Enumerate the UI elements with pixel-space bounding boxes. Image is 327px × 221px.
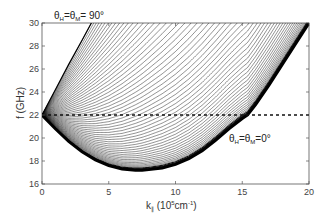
annotation-theta-90: θH=θM= 90° [54,10,104,22]
y-tick-label: 24 [29,87,39,97]
y-tick-label: 28 [29,41,39,51]
x-tick-label: 20 [304,187,314,197]
x-tick-label: 10 [170,187,180,197]
y-tick-label: 26 [29,64,39,74]
y-tick-label: 30 [29,18,39,28]
y-tick-label: 18 [29,156,39,166]
y-axis-label: f (GHz) [15,87,26,119]
y-tick-label: 16 [29,179,39,189]
x-axis-label: k∥ (105cm-1) [146,200,197,213]
dispersion-chart: 05101520 1618202224262830 θH=θM= 90° θH=… [0,0,327,221]
x-tick-label: 0 [39,187,44,197]
x-tick-label: 15 [237,187,247,197]
y-tick-label: 22 [29,110,39,120]
y-tick-label: 20 [29,133,39,143]
x-tick-label: 5 [106,187,111,197]
